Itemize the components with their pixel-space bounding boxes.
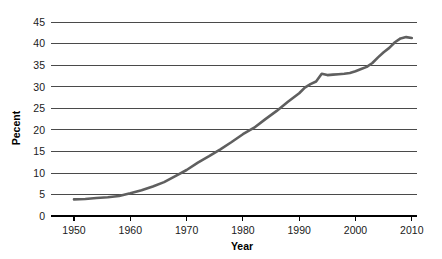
- y-tick-label-20: 20: [33, 124, 45, 136]
- data-series-line: [74, 37, 412, 199]
- y-tick-label-5: 5: [39, 188, 45, 200]
- y-tick-label-35: 35: [33, 59, 45, 71]
- x-tick-label-2010: 2010: [400, 224, 424, 236]
- x-tick-label-1960: 1960: [119, 224, 143, 236]
- x-tick-label-1980: 1980: [231, 224, 255, 236]
- y-tick-label-0: 0: [39, 210, 45, 222]
- y-axis-title: Pecent: [10, 110, 22, 145]
- y-tick-label-25: 25: [33, 102, 45, 114]
- x-tick-label-2000: 2000: [344, 224, 368, 236]
- x-tick-label-1950: 1950: [62, 224, 86, 236]
- y-tick-label-15: 15: [33, 145, 45, 157]
- y-tick-label-45: 45: [33, 16, 45, 28]
- gridlines-group: [51, 22, 417, 195]
- x-tick-label-1990: 1990: [288, 224, 312, 236]
- y-tick-labels-group: 45 40 35 30 25 20 15 10 5 0: [33, 16, 45, 222]
- x-tick-labels-group: 1950 1960 1970 1980 1990 2000 2010: [62, 224, 423, 236]
- x-axis-title: Year: [231, 240, 253, 252]
- x-tick-label-1970: 1970: [175, 224, 199, 236]
- y-tick-label-30: 30: [33, 81, 45, 93]
- y-tick-label-40: 40: [33, 37, 45, 49]
- line-chart: 45 40 35 30 25 20 15 10 5 0 1950 1960 19…: [0, 0, 442, 259]
- y-tick-label-10: 10: [33, 167, 45, 179]
- plot-area: 45 40 35 30 25 20 15 10 5 0 1950 1960 19…: [0, 0, 442, 259]
